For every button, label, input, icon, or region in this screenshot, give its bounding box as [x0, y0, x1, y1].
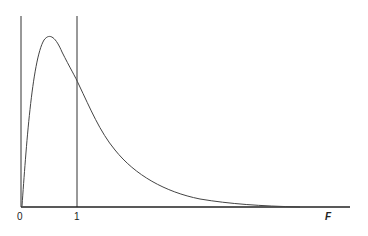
x-axis-label: F	[325, 211, 331, 222]
tick-label-zero: 0	[17, 211, 23, 222]
tick-label-one: 1	[74, 211, 80, 222]
density-curve	[22, 36, 300, 207]
f-distribution-plot	[0, 0, 368, 236]
